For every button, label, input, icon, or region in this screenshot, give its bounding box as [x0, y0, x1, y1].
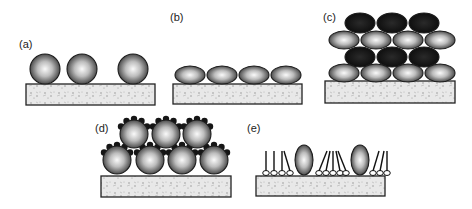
panel-d: [101, 116, 231, 197]
particle: [425, 31, 455, 49]
substrate: [325, 81, 455, 103]
particle: [329, 31, 359, 49]
substrate: [26, 84, 155, 105]
lipid-tail: [380, 151, 384, 171]
panel-label-d: (d): [95, 122, 108, 134]
particle: [103, 146, 131, 174]
substrate: [256, 176, 385, 196]
particle: [239, 66, 269, 84]
dark-particle: [345, 47, 375, 67]
substrate: [173, 84, 302, 104]
particle: [329, 64, 359, 82]
panel-c: [325, 13, 455, 103]
lipid-head: [377, 171, 384, 176]
dark-particle: [377, 47, 407, 67]
particle: [118, 54, 148, 84]
lipid-head: [323, 171, 330, 176]
panel-label-e: (e): [247, 122, 260, 134]
lipid-head: [287, 171, 294, 176]
lipid-head: [271, 171, 278, 176]
lipid-head: [330, 171, 337, 176]
lipid-head: [316, 171, 323, 176]
panel-label-c: (c): [323, 11, 336, 23]
lipid-head: [370, 171, 377, 176]
particle: [271, 66, 301, 84]
lipid-tail: [284, 151, 290, 171]
particle: [183, 120, 211, 148]
particle: [425, 64, 455, 82]
particle: [361, 31, 391, 49]
lipid-tail: [373, 151, 379, 171]
particle: [351, 145, 369, 175]
lipid-head: [263, 171, 270, 176]
particle: [152, 120, 180, 148]
panel-label-b: (b): [170, 11, 183, 23]
particle: [120, 120, 148, 148]
lipid-head: [384, 171, 391, 176]
particle: [207, 66, 237, 84]
panel-b: [173, 66, 302, 104]
dark-particle: [377, 13, 407, 33]
panel-a: [26, 54, 155, 105]
lipid-head: [279, 171, 286, 176]
lipid-tail: [319, 151, 327, 171]
substrate: [101, 176, 231, 197]
panel-e: [256, 145, 390, 196]
panel-label-a: (a): [19, 38, 32, 50]
dark-particle: [345, 13, 375, 33]
particle: [168, 146, 196, 174]
dark-particle: [409, 13, 439, 33]
particle: [30, 54, 60, 84]
dark-particle: [409, 47, 439, 67]
particle: [136, 146, 164, 174]
particle: [393, 64, 423, 82]
particle: [200, 146, 228, 174]
particle: [295, 145, 313, 175]
lipid-tail: [326, 151, 330, 171]
lipid-head: [343, 171, 350, 176]
particle: [67, 54, 97, 84]
figure-canvas: (a) (b) (c) (d) (e): [0, 0, 472, 209]
particle: [393, 31, 423, 49]
particle: [175, 66, 205, 84]
particle: [361, 64, 391, 82]
